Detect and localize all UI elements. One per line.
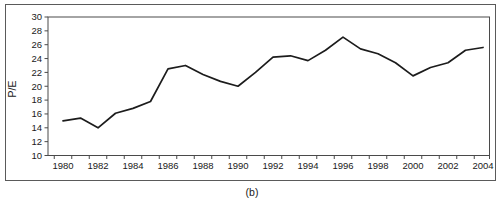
svg-text:24: 24 [31, 53, 42, 64]
svg-text:18: 18 [31, 94, 42, 105]
svg-text:28: 28 [31, 25, 42, 36]
svg-text:2002: 2002 [437, 160, 458, 171]
svg-text:1980: 1980 [52, 160, 73, 171]
svg-text:1996: 1996 [332, 160, 353, 171]
figure-panel: 1012141618202224262830198019821984198619… [0, 0, 503, 200]
svg-text:30: 30 [31, 11, 42, 22]
svg-text:1992: 1992 [262, 160, 283, 171]
svg-text:20: 20 [31, 81, 42, 92]
plot-layer: 1012141618202224262830198019821984198619… [31, 11, 493, 171]
svg-text:1994: 1994 [297, 160, 318, 171]
svg-text:1988: 1988 [192, 160, 213, 171]
svg-text:2004: 2004 [472, 160, 493, 171]
svg-text:12: 12 [31, 136, 42, 147]
svg-text:1982: 1982 [87, 160, 108, 171]
svg-text:16: 16 [31, 108, 42, 119]
svg-text:1998: 1998 [367, 160, 388, 171]
svg-text:2000: 2000 [402, 160, 423, 171]
svg-text:1984: 1984 [122, 160, 143, 171]
svg-text:10: 10 [31, 150, 42, 161]
pe-line-chart: 1012141618202224262830198019821984198619… [0, 0, 503, 200]
svg-text:14: 14 [31, 122, 42, 133]
svg-text:22: 22 [31, 67, 42, 78]
chart-caption: (b) [246, 186, 259, 198]
svg-text:1986: 1986 [157, 160, 178, 171]
svg-text:1990: 1990 [227, 160, 248, 171]
svg-text:26: 26 [31, 39, 42, 50]
y-axis-title: P/E [6, 81, 18, 98]
